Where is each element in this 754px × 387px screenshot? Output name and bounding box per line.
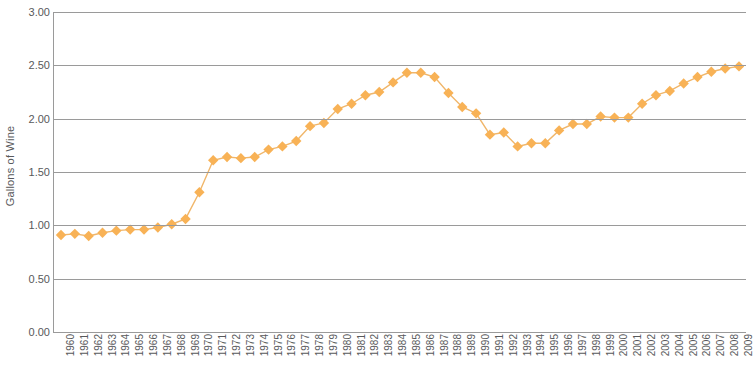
x-axis-tick-label: 1970 xyxy=(203,334,214,356)
gridline xyxy=(54,225,746,226)
data-point-marker xyxy=(595,111,605,121)
y-axis-tick-label: 0.00 xyxy=(6,326,50,338)
data-point-marker xyxy=(83,231,93,241)
x-axis-tick-label: 1972 xyxy=(231,334,242,356)
gridline xyxy=(54,119,746,120)
x-axis-tick-label: 1966 xyxy=(148,334,159,356)
x-axis-tick-label: 1973 xyxy=(245,334,256,356)
data-point-marker xyxy=(692,72,702,82)
data-point-marker xyxy=(609,112,619,122)
x-axis-tick-label: 1969 xyxy=(190,334,201,356)
y-axis-tick-label: 1.00 xyxy=(6,219,50,231)
data-point-marker xyxy=(734,61,744,71)
x-axis-tick-label: 2005 xyxy=(688,334,699,356)
data-point-marker xyxy=(402,68,412,78)
x-axis-tick-label: 2008 xyxy=(729,334,740,356)
data-point-marker xyxy=(416,68,426,78)
x-axis-tick-label: 1989 xyxy=(466,334,477,356)
data-point-marker xyxy=(651,90,661,100)
data-point-marker xyxy=(97,228,107,238)
x-axis-tick-label: 2006 xyxy=(701,334,712,356)
x-axis-tick-label: 1982 xyxy=(369,334,380,356)
y-axis-tick-label: 2.50 xyxy=(6,59,50,71)
data-point-marker xyxy=(374,87,384,97)
gridline xyxy=(54,332,746,333)
x-axis-tick-label: 1971 xyxy=(217,334,228,356)
x-axis-tick-label: 2004 xyxy=(674,334,685,356)
x-axis-tick-label: 1980 xyxy=(342,334,353,356)
x-axis-tick-labels: 1960196119621963196419651966196719681969… xyxy=(54,334,746,387)
y-axis-tick-labels: 0.000.501.001.502.002.503.00 xyxy=(0,0,50,387)
data-point-marker xyxy=(208,155,218,165)
series-line xyxy=(61,66,739,236)
data-point-marker xyxy=(360,90,370,100)
data-point-marker xyxy=(471,108,481,118)
x-axis-tick-label: 2001 xyxy=(632,334,643,356)
x-axis-tick-label: 1962 xyxy=(93,334,104,356)
data-point-marker xyxy=(153,222,163,232)
x-axis-tick-label: 1986 xyxy=(425,334,436,356)
data-point-marker xyxy=(582,119,592,129)
x-axis-tick-label: 2000 xyxy=(618,334,629,356)
x-axis-tick-label: 1968 xyxy=(176,334,187,356)
x-axis-tick-label: 1979 xyxy=(328,334,339,356)
data-point-marker xyxy=(111,225,121,235)
x-axis-tick-label: 1991 xyxy=(494,334,505,356)
data-point-marker xyxy=(678,78,688,88)
x-axis-tick-label: 1974 xyxy=(259,334,270,356)
x-axis-tick-label: 1985 xyxy=(411,334,422,356)
data-point-marker xyxy=(166,219,176,229)
x-axis-tick-label: 1988 xyxy=(452,334,463,356)
data-point-marker xyxy=(263,144,273,154)
x-axis-tick-label: 1963 xyxy=(107,334,118,356)
x-axis-tick-label: 1997 xyxy=(577,334,588,356)
data-point-marker xyxy=(56,230,66,240)
x-axis-tick-label: 1975 xyxy=(273,334,284,356)
plot-area xyxy=(54,12,746,332)
data-point-marker xyxy=(277,141,287,151)
data-point-marker xyxy=(485,129,495,139)
x-axis-tick-label: 1967 xyxy=(162,334,173,356)
x-axis-tick-label: 1993 xyxy=(522,334,533,356)
x-axis-tick-label: 1961 xyxy=(79,334,90,356)
x-axis-tick-label: 1984 xyxy=(397,334,408,356)
data-point-marker xyxy=(236,153,246,163)
x-axis-tick-label: 1976 xyxy=(286,334,297,356)
data-point-marker xyxy=(568,119,578,129)
x-axis-tick-label: 1978 xyxy=(314,334,325,356)
x-axis-tick-label: 1999 xyxy=(605,334,616,356)
x-axis-tick-label: 1994 xyxy=(535,334,546,356)
data-point-marker xyxy=(526,138,536,148)
x-axis-tick-label: 1964 xyxy=(120,334,131,356)
gridline xyxy=(54,65,746,66)
data-point-marker xyxy=(194,187,204,197)
x-axis-tick-label: 2002 xyxy=(646,334,657,356)
wine-consumption-line-chart: Gallons of Wine 0.000.501.001.502.002.50… xyxy=(0,0,754,387)
data-point-marker xyxy=(250,152,260,162)
x-axis-tick-label: 1960 xyxy=(65,334,76,356)
gridline xyxy=(54,12,746,13)
data-point-marker xyxy=(70,229,80,239)
gridline xyxy=(54,279,746,280)
data-point-marker xyxy=(388,77,398,87)
x-axis-tick-label: 1998 xyxy=(591,334,602,356)
x-axis-tick-label: 1983 xyxy=(383,334,394,356)
data-point-marker xyxy=(346,99,356,109)
x-axis-tick-label: 1995 xyxy=(549,334,560,356)
x-axis-tick-label: 2007 xyxy=(715,334,726,356)
x-axis-tick-label: 1996 xyxy=(563,334,574,356)
x-axis-tick-label: 1977 xyxy=(300,334,311,356)
y-axis-tick-label: 1.50 xyxy=(6,166,50,178)
x-axis-tick-label: 1990 xyxy=(480,334,491,356)
x-axis-tick-label: 1965 xyxy=(134,334,145,356)
x-axis-tick-label: 1981 xyxy=(356,334,367,356)
x-axis-tick-label: 2009 xyxy=(743,334,754,356)
x-axis-tick-label: 1987 xyxy=(439,334,450,356)
y-axis-tick-label: 3.00 xyxy=(6,6,50,18)
data-point-marker xyxy=(665,86,675,96)
data-point-marker xyxy=(180,214,190,224)
data-point-marker xyxy=(222,152,232,162)
y-axis-tick-label: 0.50 xyxy=(6,273,50,285)
data-point-marker xyxy=(706,67,716,77)
y-axis-tick-label: 2.00 xyxy=(6,113,50,125)
